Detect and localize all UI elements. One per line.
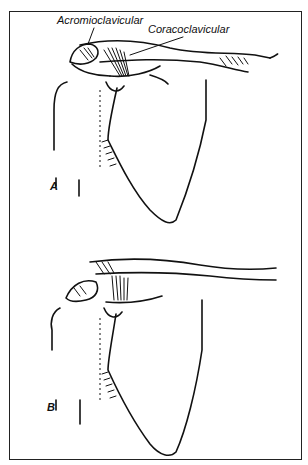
clavicle-b xyxy=(90,259,276,269)
humerus-a xyxy=(54,82,67,150)
scapula-a xyxy=(108,80,206,223)
scapula-b xyxy=(108,300,202,455)
acromion-a xyxy=(70,44,98,64)
cc-ligament-b xyxy=(112,276,128,300)
panel-a-drawing xyxy=(54,28,278,223)
humerus-b xyxy=(51,308,60,350)
cc-leader-line xyxy=(130,37,183,55)
ac-ligament-a xyxy=(80,48,94,60)
acromion-b xyxy=(66,281,98,302)
panel-b-drawing xyxy=(51,259,276,455)
ac-leader-line xyxy=(88,28,94,44)
shoulder-illustration xyxy=(0,0,308,465)
